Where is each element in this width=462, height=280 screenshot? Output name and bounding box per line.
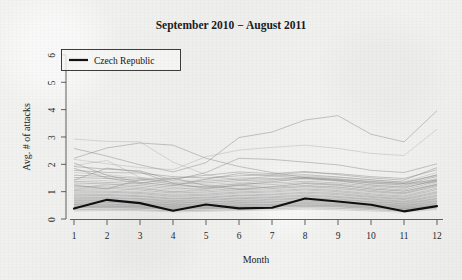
x-axis-ticks: 123456789101112 bbox=[72, 220, 442, 241]
series-line bbox=[74, 129, 437, 169]
chart-container: September 2010 − August 2011 Avg. # of a… bbox=[0, 0, 462, 280]
y-tick-label: 1 bbox=[47, 190, 57, 195]
x-axis-title: Month bbox=[243, 254, 270, 265]
x-tick-label: 1 bbox=[72, 231, 77, 241]
chart-legend[interactable]: Czech Republic bbox=[62, 50, 181, 71]
x-tick-label: 8 bbox=[303, 231, 308, 241]
background-series-group bbox=[74, 111, 437, 212]
y-tick-label: 5 bbox=[47, 80, 57, 85]
x-tick-label: 11 bbox=[399, 231, 408, 241]
x-tick-label: 6 bbox=[237, 231, 242, 241]
y-tick-label: 3 bbox=[47, 135, 57, 140]
x-tick-label: 7 bbox=[270, 231, 275, 241]
x-tick-label: 2 bbox=[105, 231, 110, 241]
x-tick-label: 4 bbox=[171, 231, 176, 241]
series-line bbox=[74, 175, 437, 184]
y-tick-label: 0 bbox=[47, 217, 57, 222]
x-tick-label: 12 bbox=[432, 231, 442, 241]
series-line bbox=[74, 111, 437, 172]
y-tick-label: 6 bbox=[47, 53, 57, 58]
y-axis-title: Avg. # of attacks bbox=[21, 103, 32, 171]
y-tick-label: 2 bbox=[47, 162, 57, 167]
x-tick-label: 5 bbox=[204, 231, 209, 241]
line-chart: September 2010 − August 2011 Avg. # of a… bbox=[0, 0, 462, 280]
y-axis-ticks: 0123456 bbox=[47, 53, 66, 222]
x-tick-label: 10 bbox=[366, 231, 376, 241]
chart-title: September 2010 − August 2011 bbox=[156, 19, 307, 32]
legend-label-czech-republic: Czech Republic bbox=[94, 56, 154, 66]
x-tick-label: 3 bbox=[138, 231, 143, 241]
y-tick-label: 4 bbox=[47, 107, 57, 112]
x-tick-label: 9 bbox=[336, 231, 341, 241]
